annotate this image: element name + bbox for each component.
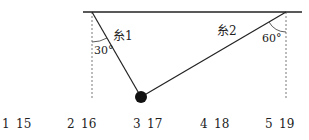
option-2[interactable]: 216 xyxy=(67,117,96,131)
option-1[interactable]: 115 xyxy=(2,117,31,131)
option-number: 1 xyxy=(2,117,16,131)
option-number: 5 xyxy=(265,117,279,131)
angle-30-label: 30° xyxy=(94,44,114,58)
angle-arc-60 xyxy=(269,22,286,32)
option-3[interactable]: 317 xyxy=(133,117,162,131)
option-number: 4 xyxy=(200,117,214,131)
option-value: 15 xyxy=(16,117,31,131)
option-value: 19 xyxy=(279,117,294,131)
option-number: 3 xyxy=(133,117,147,131)
option-value: 17 xyxy=(147,117,162,131)
option-value: 16 xyxy=(81,117,96,131)
ball xyxy=(135,91,147,103)
string-1-label: 糸1 xyxy=(113,29,133,43)
option-4[interactable]: 418 xyxy=(200,117,229,131)
angle-arc-30 xyxy=(92,38,107,42)
string-2 xyxy=(141,12,286,97)
option-5[interactable]: 519 xyxy=(265,117,294,131)
option-number: 2 xyxy=(67,117,81,131)
option-value: 18 xyxy=(214,117,229,131)
angle-60-label: 60° xyxy=(262,32,282,46)
string-2-label: 糸2 xyxy=(217,24,237,38)
